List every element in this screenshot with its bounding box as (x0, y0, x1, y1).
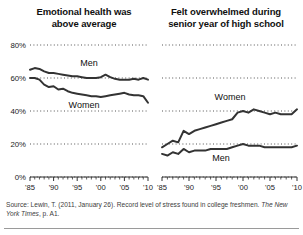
svg-text:'10: '10 (143, 183, 153, 192)
right-x-axis (162, 177, 297, 181)
svg-text:'90: '90 (49, 183, 59, 192)
svg-text:'10: '10 (292, 183, 302, 192)
svg-text:'90: '90 (184, 183, 194, 192)
left-x-axis-labels: '85'90'95'00'05'10 (25, 183, 153, 192)
svg-text:80%: 80% (10, 41, 26, 50)
left-men-label: Men (80, 58, 98, 68)
svg-text:0%: 0% (15, 173, 26, 182)
svg-text:40%: 40% (10, 107, 26, 116)
right-women-label: Women (215, 92, 246, 102)
svg-text:'00: '00 (238, 183, 248, 192)
svg-text:60%: 60% (10, 74, 26, 83)
left-series-lines (30, 68, 148, 103)
source-text-after: , p. A1. (39, 210, 60, 217)
chart-figure: Emotional health was above average Felt … (0, 0, 303, 235)
left-women-label: Women (69, 100, 100, 110)
right-x-axis-labels: '85'90'95'00'05'10 (157, 183, 302, 192)
svg-text:'85: '85 (157, 183, 167, 192)
svg-text:'85: '85 (25, 183, 35, 192)
source-note: Source: Lewin, T. (2011, January 26). Re… (6, 200, 298, 218)
svg-text:'05: '05 (119, 183, 129, 192)
svg-text:20%: 20% (10, 140, 26, 149)
left-x-axis (30, 177, 148, 181)
svg-text:'00: '00 (96, 183, 106, 192)
right-series-lines (162, 109, 297, 155)
bottom-rule-divider (4, 228, 299, 229)
source-text-before: Source: Lewin, T. (2011, January 26). Re… (6, 201, 261, 208)
svg-text:'95: '95 (211, 183, 221, 192)
y-axis-labels: 80%60%40%20%0% (10, 41, 26, 182)
svg-text:'05: '05 (265, 183, 275, 192)
right-men-label: Men (212, 153, 230, 163)
svg-text:'95: '95 (72, 183, 82, 192)
